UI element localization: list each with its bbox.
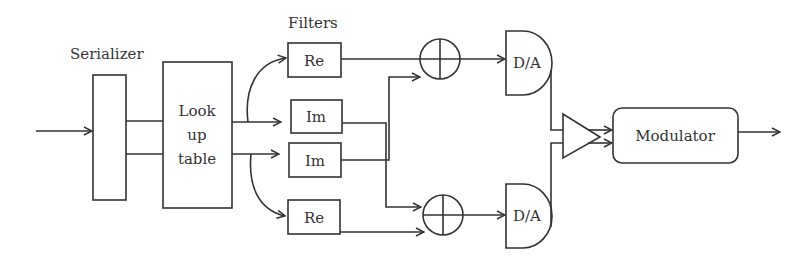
lut-to-re-top-arrow	[247, 58, 286, 122]
serializer-block	[93, 75, 126, 200]
lut-to-re-bottom-arrow	[250, 154, 285, 216]
im-bottom-to-adder-top-line	[341, 77, 420, 160]
adder-top	[420, 39, 460, 79]
da-top-label: D/A	[513, 54, 541, 72]
amplifier-triangle-icon	[563, 114, 600, 158]
filters-label: Filters	[288, 14, 338, 32]
filter-im-bottom-label: Im	[305, 152, 325, 170]
im-top-to-adder-bottom-line	[342, 123, 421, 207]
serializer-label: Serializer	[70, 45, 144, 63]
filter-re-bottom-label: Re	[304, 209, 324, 227]
adder-bottom	[423, 195, 463, 235]
filter-im-top-label: Im	[306, 108, 326, 126]
filter-re-top-label: Re	[304, 52, 324, 70]
da-bottom-label: D/A	[513, 207, 541, 225]
lut-label-line3: table	[178, 150, 216, 168]
da-top-to-amp-line	[551, 70, 563, 130]
lut-label-line2: up	[187, 126, 206, 144]
modulator-label: Modulator	[635, 127, 715, 145]
lut-label-line1: Look	[178, 102, 216, 120]
da-bottom-to-amp-line	[551, 143, 563, 227]
block-diagram: Serializer Look up table Filters Re Im I…	[0, 0, 808, 268]
